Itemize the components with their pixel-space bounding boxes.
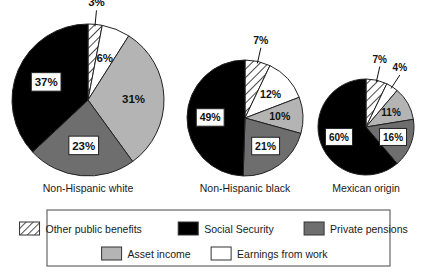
slice-value-label: 23% (72, 140, 95, 152)
pie-category-label: Non-Hispanic black (200, 182, 291, 194)
legend-label: Earnings from work (237, 248, 328, 260)
slice-value-label: 16% (383, 132, 403, 143)
legend-label: Social Security (204, 223, 274, 235)
legend-swatch (304, 222, 324, 235)
slice-value-label: 11% (381, 107, 401, 118)
slice-value-label: 6% (96, 52, 113, 64)
slice-value-label: 12% (260, 88, 282, 100)
legend-swatch (20, 222, 40, 235)
legend-label: Private pensions (330, 223, 408, 235)
slice-value-label: 4% (393, 62, 408, 73)
slice-value-label: 3% (88, 0, 105, 8)
income-sources-pie-chart: 3%6%31%23%37%Non-Hispanic white7%12%10%2… (0, 0, 433, 274)
legend-swatch (178, 222, 198, 235)
slice-value-label: 49% (200, 111, 222, 123)
slice-value-label: 37% (35, 76, 58, 88)
legend-swatch (102, 247, 122, 260)
slice-value-label: 7% (373, 54, 388, 65)
slice-value-label: 21% (255, 140, 277, 152)
slice-value-label: 10% (269, 110, 291, 122)
pie-category-label: Mexican origin (332, 182, 400, 194)
slice-value-label: 7% (253, 34, 269, 46)
pie-category-label: Non-Hispanic white (43, 182, 134, 194)
slice-value-label: 60% (329, 132, 349, 143)
slice-value-label: 31% (122, 93, 145, 105)
chart-legend: Other public benefitsSocial SecurityPriv… (20, 210, 408, 266)
legend-swatch (211, 247, 231, 260)
legend-label: Asset income (128, 248, 191, 260)
pie-chart-figure: 3%6%31%23%37%Non-Hispanic white7%12%10%2… (0, 0, 433, 274)
legend-label: Other public benefits (46, 223, 142, 235)
